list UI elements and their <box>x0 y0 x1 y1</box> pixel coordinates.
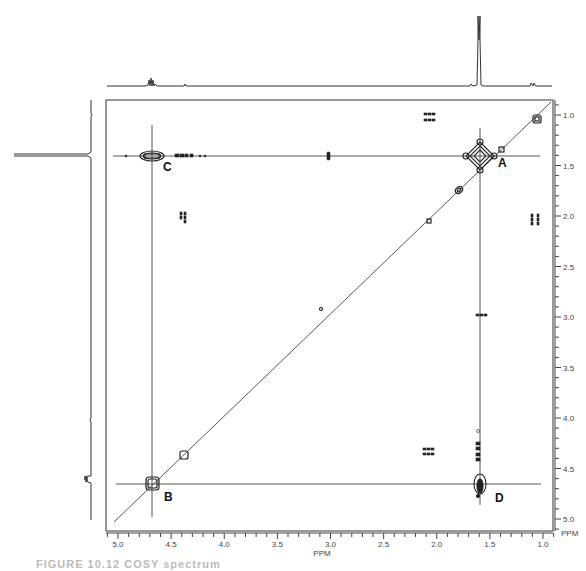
x-tick-label: 3.5 <box>272 540 284 549</box>
y-axis-title: PPM <box>561 529 579 538</box>
y-tick-label: 2.0 <box>563 212 575 221</box>
peak-label-c: C <box>163 160 172 174</box>
left-projection-spectrum <box>14 100 92 520</box>
y-tick-label: 3.5 <box>563 364 575 373</box>
cosy-spectrum-plot: A C B D 5.04.54.03.53.02.52.01.51.0 PPM … <box>0 0 586 571</box>
cross-peaks <box>125 113 539 461</box>
y-tick-label: 1.0 <box>563 111 575 120</box>
x-axis: 5.04.54.03.53.02.52.01.51.0 PPM <box>106 533 554 558</box>
x-tick-label: 3.0 <box>325 540 337 549</box>
top-projection-spectrum <box>107 16 552 86</box>
y-tick-label: 5.0 <box>563 515 575 524</box>
x-tick-label: 5.0 <box>112 540 124 549</box>
peak-label-b: B <box>164 490 173 504</box>
x-tick-label: 2.0 <box>431 540 443 549</box>
figure-caption: FIGURE 10.12 COSY spectrum <box>36 558 221 570</box>
x-axis-title: PPM <box>313 549 331 558</box>
x-tick-label: 4.0 <box>219 540 231 549</box>
y-tick-label: 3.0 <box>563 313 575 322</box>
y-tick-label: 1.5 <box>563 162 575 171</box>
y-tick-label: 4.5 <box>563 465 575 474</box>
x-tick-label: 1.0 <box>537 540 549 549</box>
peak-label-a: A <box>498 156 507 170</box>
y-tick-label: 2.5 <box>563 263 575 272</box>
x-tick-label: 2.5 <box>378 540 390 549</box>
x-tick-label: 4.5 <box>166 540 178 549</box>
x-tick-label: 1.5 <box>484 540 496 549</box>
peak-label-d: D <box>495 491 504 505</box>
y-axis: 1.01.52.02.53.03.54.04.55.0 PPM <box>555 100 579 538</box>
y-tick-label: 4.0 <box>563 414 575 423</box>
